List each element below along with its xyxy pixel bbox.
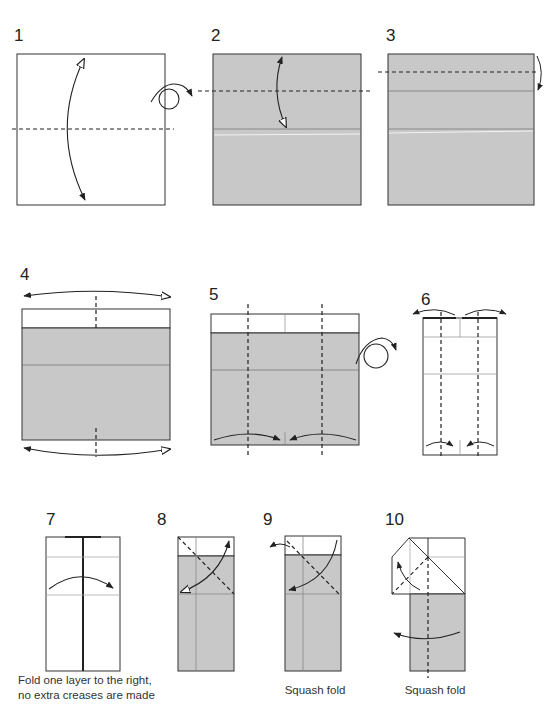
step-number: 2 xyxy=(211,26,220,46)
step-10 xyxy=(392,538,465,678)
diagram-canvas xyxy=(0,0,546,704)
paper-colored-body xyxy=(22,328,170,440)
step-number: 6 xyxy=(421,290,430,310)
fold-unfold-arrow-top xyxy=(24,291,170,297)
paper-square-colored xyxy=(388,54,534,205)
fold-arrow-behind xyxy=(537,56,541,90)
step-3 xyxy=(378,54,541,205)
step-1 xyxy=(12,54,192,205)
step-10-caption: Squash fold xyxy=(390,683,480,698)
step-5 xyxy=(211,304,396,456)
paper-colored-body xyxy=(211,333,359,445)
caption-line: no extra creases are made xyxy=(18,688,150,703)
paper-white-rectangle xyxy=(423,318,497,455)
caption-line: Fold one layer to the right, xyxy=(18,673,150,688)
step-8 xyxy=(178,537,234,671)
turn-over-icon xyxy=(356,338,396,368)
step-number: 3 xyxy=(386,26,395,46)
step-number: 9 xyxy=(263,510,272,530)
step-number: 1 xyxy=(14,26,23,46)
step-7 xyxy=(46,537,120,671)
step-number: 7 xyxy=(46,510,55,530)
step-number: 8 xyxy=(157,510,166,530)
step-7-caption: Fold one layer to the right, no extra cr… xyxy=(18,673,150,703)
unfold-arrow-right xyxy=(465,310,506,315)
step-2 xyxy=(198,54,372,205)
paper-colored-body xyxy=(410,594,465,671)
paper-white-flap xyxy=(285,536,341,555)
step-number: 5 xyxy=(209,285,218,305)
unfold-arrow-left xyxy=(413,310,455,315)
paper-white-flap xyxy=(178,537,234,556)
step-6 xyxy=(413,310,506,459)
paper-colored-body xyxy=(178,556,234,671)
step-9-caption: Squash fold xyxy=(270,683,360,698)
paper-colored-body xyxy=(285,555,341,671)
fold-unfold-arrow-bottom xyxy=(24,448,170,455)
step-number: 10 xyxy=(385,510,404,530)
step-4 xyxy=(22,291,170,457)
step-9 xyxy=(270,536,341,671)
step-number: 4 xyxy=(20,265,29,285)
paper-square-colored xyxy=(213,54,361,205)
